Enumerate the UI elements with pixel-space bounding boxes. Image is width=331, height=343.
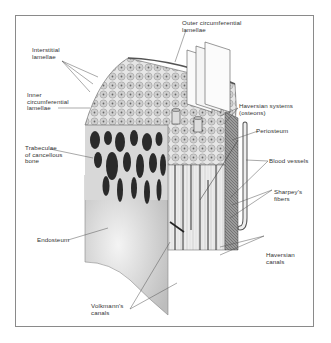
label-volkmanns-canals: Volkmann's canals xyxy=(91,303,123,316)
label-haversian-canals: Haversian canals xyxy=(266,252,295,265)
label-trabeculae: Trabeculae of cancellous bone xyxy=(25,145,62,165)
label-haversian-systems: Haversian systems (osteons) xyxy=(239,103,293,116)
label-blood-vessels: Blood vessels xyxy=(269,158,308,165)
label-inner-circumferential-lamellae: Inner circumferential lamellae xyxy=(27,92,69,112)
label-periosteum: Periosteum xyxy=(256,128,288,135)
label-interstitial-lamellae: Interstitial lamellae xyxy=(32,47,60,60)
label-outer-circumferential-lamellae: Outer circumferential lamellae xyxy=(182,20,242,33)
label-sharpeys-fibers: Sharpey's fibers xyxy=(274,189,302,202)
periosteum-strip xyxy=(225,112,238,250)
label-endosteum: Endosteum xyxy=(37,237,69,244)
